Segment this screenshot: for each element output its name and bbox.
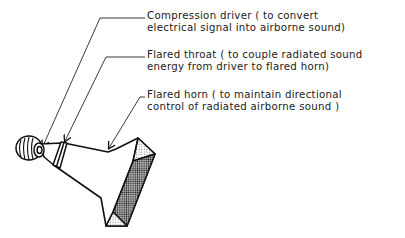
label-compression-driver-line1: Compression driver ( to convert <box>147 10 345 22</box>
label-flared-horn-line1: Flared horn ( to maintain directional <box>147 89 342 101</box>
label-flared-throat-line2: energy from driver to flared horn) <box>147 61 363 73</box>
horn-loudspeaker-illustration <box>0 0 405 238</box>
label-flared-throat: Flared throat ( to couple radiated sound… <box>147 49 363 73</box>
label-flared-horn-line2: control of radiated airborne sound ) <box>147 101 342 113</box>
label-compression-driver: Compression driver ( to convert electric… <box>147 10 345 34</box>
label-flared-throat-line1: Flared throat ( to couple radiated sound <box>147 49 363 61</box>
label-compression-driver-line2: electrical signal into airborne sound) <box>147 22 345 34</box>
compression-driver-shape <box>16 136 44 160</box>
label-flared-horn: Flared horn ( to maintain directional co… <box>147 89 342 113</box>
